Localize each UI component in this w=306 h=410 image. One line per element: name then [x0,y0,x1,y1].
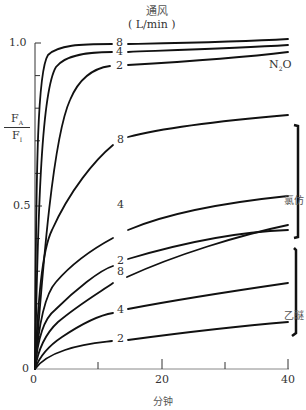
label-chloroform-8: 8 [117,133,124,146]
x-axis-label: 分钟 [153,393,173,408]
label-n2o: N2O [269,58,291,72]
y-axis-label: FA FI [4,112,30,143]
label-ether: 乙醚 [284,307,304,322]
label-chloroform: 氯仿 [284,192,304,207]
ventilation-title: 通风 [146,2,168,18]
label-ether-4: 4 [117,303,124,316]
ytick-0.5: 0.5 [13,199,31,212]
label-n2o-4: 4 [116,45,123,58]
xtick-20: 20 [155,373,169,386]
bracket-ether [292,248,296,336]
label-ether-8: 8 [117,265,124,278]
group-brackets [292,125,298,336]
ytick-0: 0 [22,362,29,375]
curve-chloroform-4 [35,196,288,369]
curve-n2o-8 [35,39,288,369]
label-chloroform-4: 4 [117,198,124,211]
xtick-40: 40 [281,373,295,386]
xtick-0: 0 [30,373,37,386]
chart-plot [0,0,306,410]
label-n2o-2: 2 [116,59,123,72]
ytick-1: 1.0 [9,36,27,49]
bracket-chloroform [294,125,298,238]
label-ether-2: 2 [117,332,124,345]
ventilation-unit: ( L/min ) [128,18,176,31]
curve-n2o-2 [35,52,288,369]
